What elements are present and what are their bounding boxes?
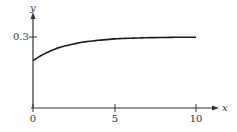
x-axis-label: x: [222, 102, 228, 113]
chart-figure: y x 0.3 0 5 10: [0, 0, 237, 132]
y-axis-label: y: [29, 2, 36, 13]
x-axis-arrow-icon: [212, 106, 219, 111]
data-curve: [33, 37, 196, 60]
x-tick-label-10: 10: [190, 113, 203, 124]
y-axis-arrow-icon: [31, 12, 36, 19]
y-tick-label-0.3: 0.3: [13, 31, 29, 42]
x-tick-label-0: 0: [30, 113, 36, 124]
x-tick-label-5: 5: [112, 113, 118, 124]
chart-svg: y x 0.3 0 5 10: [0, 0, 237, 132]
